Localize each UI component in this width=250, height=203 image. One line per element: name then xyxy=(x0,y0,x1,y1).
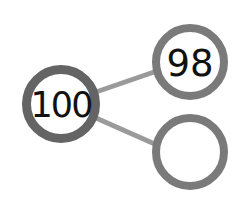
whole-value: 100 xyxy=(31,85,92,125)
part-circle-bottom[interactable] xyxy=(156,118,224,186)
blank-answer-circle[interactable] xyxy=(156,118,224,186)
number-bond-diagram: 100 98 xyxy=(0,0,250,203)
part-circle-top: 98 xyxy=(156,28,224,96)
connector-top xyxy=(96,71,157,92)
whole-circle: 100 xyxy=(27,70,96,139)
part-top-value: 98 xyxy=(166,42,213,85)
connector-bottom xyxy=(96,118,157,145)
